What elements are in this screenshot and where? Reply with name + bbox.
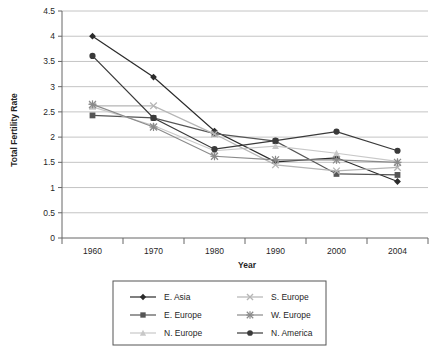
chart-legend: E. AsiaS. EuropeE. EuropeW. EuropeN. Eur… xyxy=(113,281,326,345)
data-point-marker xyxy=(271,156,279,164)
axis-lines xyxy=(62,11,428,238)
legend-label: W. Europe xyxy=(271,310,311,320)
x-axis-title: Year xyxy=(238,260,257,270)
y-axis-tick-label: 2 xyxy=(50,132,55,142)
series-n-america xyxy=(89,53,400,154)
y-axis-tick-label: 3.5 xyxy=(43,56,55,66)
y-axis-tick-label: 4.5 xyxy=(43,6,55,16)
series-line xyxy=(93,106,398,171)
y-axis-tick-label: 0 xyxy=(50,233,55,243)
data-point-marker xyxy=(247,330,253,336)
x-axis-tick-label: 1960 xyxy=(83,246,102,256)
legend-label: E. Asia xyxy=(164,292,191,302)
y-axis-tick-labels: 00.511.522.533.544.5 xyxy=(43,6,62,243)
legend-label: E. Europe xyxy=(164,310,202,320)
x-axis-tick-labels: 196019701980199020002004 xyxy=(62,238,428,256)
data-point-marker xyxy=(211,146,217,152)
series-line xyxy=(93,107,398,161)
data-point-marker xyxy=(89,33,96,40)
y-axis-tick-label: 3 xyxy=(50,82,55,92)
series-s-europe xyxy=(89,103,401,175)
data-point-marker xyxy=(210,152,218,160)
data-point-marker xyxy=(88,100,96,108)
legend-label: S. Europe xyxy=(271,292,309,302)
y-axis-tick-label: 1 xyxy=(50,183,55,193)
series-w-europe xyxy=(88,100,401,166)
series-line xyxy=(93,36,398,181)
data-point-marker xyxy=(89,53,95,59)
y-axis-tick-label: 2.5 xyxy=(43,107,55,117)
x-axis-tick-label: 2004 xyxy=(388,246,407,256)
x-axis-tick-label: 1970 xyxy=(144,246,163,256)
series-line xyxy=(93,104,398,162)
data-point-marker xyxy=(90,113,96,119)
x-axis-tick-label: 1980 xyxy=(205,246,224,256)
data-point-marker xyxy=(149,123,157,131)
data-point-marker xyxy=(393,158,401,166)
y-axis-tick-label: 0.5 xyxy=(43,208,55,218)
data-point-marker xyxy=(334,171,340,177)
data-point-marker xyxy=(272,138,278,144)
fertility-line-chart: 00.511.522.533.544.5 1960197019801990200… xyxy=(0,0,437,358)
y-axis-tick-label: 1.5 xyxy=(43,157,55,167)
y-axis-title: Total Fertility Rate xyxy=(9,93,19,167)
data-point-marker xyxy=(140,312,145,317)
gridlines xyxy=(62,11,428,213)
data-point-marker xyxy=(394,178,401,185)
data-point-marker xyxy=(150,115,156,121)
x-axis-tick-label: 2000 xyxy=(327,246,346,256)
y-axis-tick-label: 4 xyxy=(50,31,55,41)
data-point-marker xyxy=(395,172,401,178)
legend-label: N. Europe xyxy=(164,328,203,338)
data-point-marker xyxy=(333,128,339,134)
chart-container: 00.511.522.533.544.5 1960197019801990200… xyxy=(0,0,437,358)
series-line xyxy=(93,56,398,151)
data-point-marker xyxy=(332,156,340,164)
data-point-marker xyxy=(246,311,253,318)
series-n-europe xyxy=(89,103,401,164)
x-axis-tick-label: 1990 xyxy=(266,246,285,256)
data-point-marker xyxy=(394,148,400,154)
legend-label: N. America xyxy=(271,328,313,338)
